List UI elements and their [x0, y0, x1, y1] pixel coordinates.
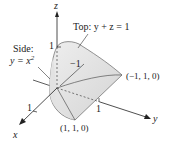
x-tick [33, 111, 37, 112]
diagram-stage: z x y 1 1 1 −1 Top: y + z = 1 Side: y = … [0, 0, 169, 150]
z-axis-label: z [54, 1, 58, 11]
side-leader [38, 67, 50, 79]
neg-one-tick-label: −1 [70, 59, 81, 69]
side-equation: y = x2 [10, 55, 34, 66]
point-1-1-0: (1, 1, 0) [60, 124, 89, 133]
y-axis-arrow [144, 114, 151, 119]
top-leader [78, 34, 88, 48]
z-tick-label: 1 [49, 41, 54, 51]
x-tick-label: 1 [27, 103, 32, 113]
y-axis-label: y [153, 114, 157, 124]
side-equation-text: y = x [10, 55, 31, 66]
point-neg1-1-0: (−1, 1, 0) [126, 72, 160, 81]
x-axis-label: x [13, 130, 17, 140]
y-axis [100, 102, 146, 117]
z-axis-arrow [55, 11, 59, 17]
side-label: Side: [13, 44, 34, 54]
side-equation-exponent: 2 [31, 54, 35, 62]
y-tick-label: 1 [96, 104, 101, 114]
top-plane-label: Top: y + z = 1 [73, 22, 129, 32]
solid-surface [50, 42, 122, 120]
